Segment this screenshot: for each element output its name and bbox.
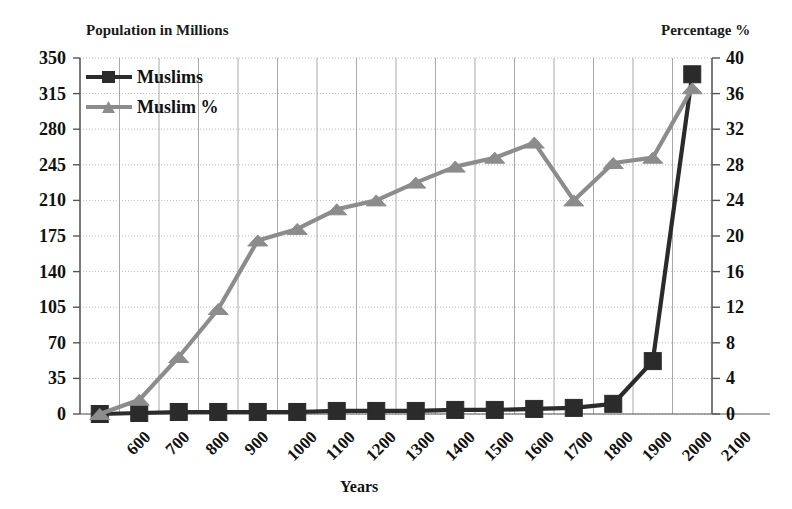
legend-item-muslim-percent[interactable]: Muslim % [86, 92, 266, 122]
right-tick-32: 32 [726, 120, 774, 138]
legend-label-muslim-percent: Muslim % [137, 97, 219, 118]
left-tick-140: 140 [18, 263, 66, 281]
left-tick-175: 175 [18, 227, 66, 245]
right-tick-40: 40 [726, 49, 774, 67]
left-tick-315: 315 [18, 85, 66, 103]
triangle-marker-line-icon [86, 100, 132, 114]
right-tick-0: 0 [726, 405, 774, 423]
chart-legend: Muslims Muslim % [86, 62, 266, 122]
left-tick-0: 0 [18, 405, 66, 423]
x-axis-title: Years [340, 478, 378, 496]
right-tick-20: 20 [726, 227, 774, 245]
square-marker-line-icon [86, 70, 132, 84]
left-tick-105: 105 [18, 298, 66, 316]
left-tick-35: 35 [18, 369, 66, 387]
right-tick-24: 24 [726, 191, 774, 209]
right-tick-28: 28 [726, 156, 774, 174]
left-tick-70: 70 [18, 334, 66, 352]
legend-label-muslims: Muslims [137, 67, 203, 88]
right-tick-4: 4 [726, 369, 774, 387]
left-tick-350: 350 [18, 49, 66, 67]
right-tick-12: 12 [726, 298, 774, 316]
legend-item-muslims[interactable]: Muslims [86, 62, 266, 92]
left-tick-210: 210 [18, 191, 66, 209]
right-tick-8: 8 [726, 334, 774, 352]
left-tick-245: 245 [18, 156, 66, 174]
right-tick-36: 36 [726, 85, 774, 103]
left-tick-280: 280 [18, 120, 66, 138]
right-tick-16: 16 [726, 263, 774, 281]
chart-figure: Population in Millions Percentage % 0357… [0, 0, 792, 509]
